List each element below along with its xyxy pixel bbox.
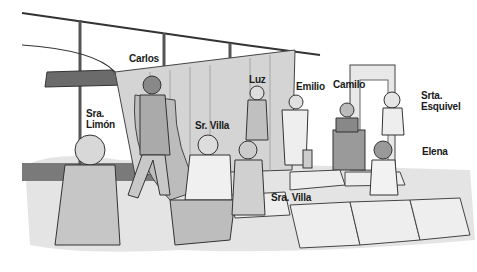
label-sra-villa: Sra. Villa: [271, 192, 311, 203]
elena-figure: [374, 141, 392, 159]
label-elena: Elena: [422, 146, 448, 157]
sr-villa-figure: [198, 135, 218, 155]
label-carlos: Carlos: [129, 53, 159, 64]
wall-curve: [22, 45, 115, 72]
airport-illustration: Carlos Sra. Limón Sr. Villa Luz Emilio C…: [0, 0, 477, 272]
label-camilo: Camilo: [333, 79, 365, 90]
label-luz: Luz: [249, 74, 266, 85]
luz-figure: [250, 86, 264, 100]
roof-beam: [22, 13, 320, 55]
camilo-figure: [340, 103, 354, 117]
label-sra-limon: Sra. Limón: [86, 108, 115, 130]
window-panel: [45, 70, 125, 87]
srta-esquivel-figure: [384, 92, 400, 108]
label-emilio: Emilio: [296, 81, 325, 92]
emilio-figure: [289, 95, 303, 109]
scene-drawing: [0, 0, 477, 272]
sra-villa-figure: [239, 141, 257, 159]
label-srta-esquivel: Srta. Esquivel: [421, 90, 461, 112]
podium: [333, 130, 365, 170]
label-sr-villa: Sr. Villa: [195, 120, 229, 131]
sra-limon-figure: [75, 135, 105, 165]
carlos-figure: [143, 76, 161, 94]
